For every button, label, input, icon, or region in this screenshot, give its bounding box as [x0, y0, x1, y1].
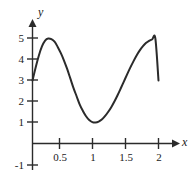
x-tick-label-1-5: 1.5 — [111, 152, 141, 163]
x-tick-label-2: 2 — [144, 152, 174, 163]
data-curve — [33, 36, 159, 123]
x-tick-label-1: 1 — [78, 152, 108, 163]
y-tick-label-neg1: -1 — [2, 160, 24, 171]
y-axis-label: y — [38, 6, 43, 18]
y-tick-label-4: 4 — [6, 54, 24, 65]
y-axis-arrowhead — [29, 19, 37, 27]
y-tick-label-5: 5 — [6, 33, 24, 44]
x-axis-arrowhead — [172, 140, 180, 148]
x-tick-label-0-5: 0.5 — [45, 152, 75, 163]
chart-figure: 5 4 3 2 1 -1 0.5 1 1.5 2 y x — [0, 0, 192, 182]
y-tick-label-1: 1 — [6, 117, 24, 128]
y-tick-label-2: 2 — [6, 96, 24, 107]
x-axis-label: x — [182, 136, 187, 148]
y-tick-label-3: 3 — [6, 75, 24, 86]
